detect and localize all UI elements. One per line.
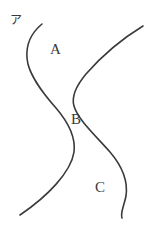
region-label-c: C — [95, 180, 105, 195]
figure-tag-label: ア — [10, 14, 22, 26]
figure-container: ア A B C — [0, 0, 160, 232]
region-label-b: B — [71, 112, 81, 127]
region-label-a: A — [50, 42, 61, 57]
